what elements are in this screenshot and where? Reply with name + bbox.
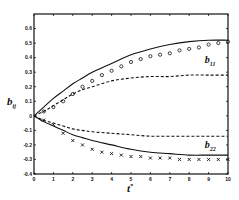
x-tick-label: 3 [91, 176, 94, 182]
circle-marker [100, 73, 103, 76]
circle-marker [91, 79, 94, 82]
x-tick-label: 1 [52, 176, 55, 182]
x-marker [188, 158, 191, 161]
circle-marker [120, 65, 123, 68]
x-marker [100, 151, 103, 154]
x-tick-label: 6 [149, 176, 152, 182]
circle-marker [168, 52, 171, 55]
series-line [34, 75, 228, 116]
x-marker [197, 158, 200, 161]
circle-marker [159, 53, 162, 56]
x-marker [168, 157, 171, 160]
circle-marker [188, 47, 191, 50]
chart-container: 012345678910-0.4-0.3-0.2-0.100.10.20.30.… [0, 0, 239, 200]
plot-border [34, 14, 228, 174]
curve-annotations: b11b22 [205, 54, 216, 151]
y-tick-label: 0.6 [25, 25, 32, 31]
circle-marker [62, 100, 65, 103]
x-tick-label: 2 [71, 176, 74, 182]
circle-marker [81, 85, 84, 88]
circle-marker [207, 43, 210, 46]
x-marker [62, 132, 65, 135]
x-marker [159, 157, 162, 160]
x-marker [207, 158, 210, 161]
circle-marker [129, 60, 132, 63]
y-axis-label: bij [7, 95, 16, 109]
curve-label: b11 [205, 54, 216, 67]
x-marker [110, 152, 113, 155]
y-tick-label: 0 [29, 113, 32, 119]
x-marker [120, 154, 123, 157]
line-chart: 012345678910-0.4-0.3-0.2-0.100.10.20.30.… [0, 0, 239, 200]
x-tick-label: 10 [225, 176, 231, 182]
x-marker [71, 139, 74, 142]
series-line [34, 116, 228, 155]
y-tick-label: 0.2 [25, 84, 32, 90]
y-tick-label: 0.1 [25, 98, 32, 104]
curve-label: b22 [205, 139, 216, 152]
y-tick-label: -0.3 [23, 156, 32, 162]
x-marker [91, 148, 94, 151]
x-tick-label: 4 [110, 176, 113, 182]
circle-marker [110, 69, 113, 72]
x-marker [81, 143, 84, 146]
x-tick-label: 8 [188, 176, 191, 182]
circle-marker [217, 41, 220, 44]
x-axis-label: t* [127, 182, 134, 194]
y-tick-label: -0.4 [23, 171, 32, 177]
y-tick-label: 0.5 [25, 40, 32, 46]
y-tick-label: -0.2 [23, 142, 32, 148]
circle-marker [178, 49, 181, 52]
circle-marker [197, 46, 200, 49]
data-series [34, 40, 230, 161]
circle-marker [139, 57, 142, 60]
x-marker [130, 155, 133, 158]
x-tick-label: 7 [168, 176, 171, 182]
x-marker [149, 157, 152, 160]
x-tick-label: 0 [33, 176, 36, 182]
x-marker [178, 158, 181, 161]
x-tick-label: 9 [207, 176, 210, 182]
y-tick-label: -0.1 [23, 127, 32, 133]
x-marker [217, 158, 220, 161]
y-tick-label: 0.3 [25, 69, 32, 75]
circle-marker [149, 55, 152, 58]
y-tick-label: 0.4 [25, 54, 32, 60]
plot-frame [34, 14, 228, 174]
x-marker [139, 155, 142, 158]
